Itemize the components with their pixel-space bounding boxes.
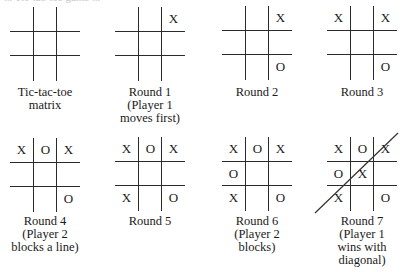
caption-round-2: Round 2 — [207, 86, 307, 99]
cell-5 — [246, 31, 269, 55]
cell-2 — [34, 7, 57, 31]
cell-9: O — [374, 186, 397, 210]
cell-5 — [34, 32, 57, 56]
board-round-2: X O — [222, 6, 292, 80]
cell-4 — [222, 31, 245, 55]
cell-1 — [10, 7, 33, 31]
caption-round-7: Round 7 (Player 1 wins with diagonal) — [312, 215, 405, 267]
cell-3: X — [374, 6, 397, 30]
cell-3: X — [57, 138, 80, 162]
cell-7 — [10, 187, 33, 211]
cell-6 — [269, 162, 292, 186]
cell-7: X — [115, 186, 138, 210]
cell-3: X — [162, 7, 185, 31]
cell-4 — [115, 32, 138, 56]
caption-line: blocks) — [207, 241, 307, 254]
cell-2: O — [34, 138, 57, 162]
cell-1: X — [327, 137, 350, 161]
cell-8 — [139, 56, 162, 80]
cell-6 — [374, 162, 397, 186]
cell-3: X — [162, 137, 185, 161]
caption-round-5: Round 5 — [100, 215, 200, 228]
cell-1: X — [222, 137, 245, 161]
caption-line: moves first) — [100, 112, 200, 125]
cell-7 — [222, 55, 245, 79]
cell-9 — [57, 56, 80, 80]
cell-3: X — [269, 6, 292, 30]
cell-8 — [34, 187, 57, 211]
caption-line: blocks a line) — [0, 241, 95, 254]
cell-5 — [246, 162, 269, 186]
cell-9: O — [162, 186, 185, 210]
cell-6 — [269, 31, 292, 55]
cell-6 — [57, 32, 80, 56]
caption-line: Round 2 — [207, 86, 307, 99]
cell-1: X — [10, 138, 33, 162]
caption-matrix: Tic-tac-toe matrix — [0, 86, 95, 112]
cell-9: O — [269, 55, 292, 79]
caption-line: diagonal) — [312, 254, 405, 267]
cell-8 — [34, 56, 57, 80]
cell-7 — [10, 56, 33, 80]
caption-line: Round 5 — [100, 215, 200, 228]
cell-8 — [246, 55, 269, 79]
caption-line: Round 3 — [312, 86, 405, 99]
board-round-1: X — [115, 7, 185, 81]
cell-9 — [162, 56, 185, 80]
cell-3 — [57, 7, 80, 31]
cell-9: O — [374, 55, 397, 79]
cell-6 — [162, 162, 185, 186]
cell-8 — [351, 186, 374, 210]
cell-3: X — [269, 137, 292, 161]
cell-5 — [34, 163, 57, 187]
cell-1: X — [115, 137, 138, 161]
cell-7: X — [222, 186, 245, 210]
caption-round-1: Round 1 (Player 1 moves first) — [100, 86, 200, 125]
cell-9: O — [57, 187, 80, 211]
cell-4: O — [222, 162, 245, 186]
cell-7: X — [327, 186, 350, 210]
cell-4 — [10, 163, 33, 187]
board-round-7: X O X O X X O — [327, 137, 397, 211]
cell-5 — [139, 162, 162, 186]
cell-5: X — [351, 162, 374, 186]
cell-6 — [162, 32, 185, 56]
cell-8 — [246, 186, 269, 210]
board-round-4: X O X O — [10, 138, 80, 212]
caption-round-6: Round 6 (Player 2 blocks) — [207, 215, 307, 254]
cell-6 — [374, 31, 397, 55]
cut-off-heading: ... Tic-tac-toe game ... — [4, 0, 100, 3]
cell-4 — [115, 162, 138, 186]
cell-7 — [327, 55, 350, 79]
cell-2 — [246, 6, 269, 30]
cell-4 — [10, 32, 33, 56]
cell-2 — [139, 7, 162, 31]
cell-2: O — [246, 137, 269, 161]
cell-5 — [139, 32, 162, 56]
cell-2 — [351, 6, 374, 30]
cell-7 — [115, 56, 138, 80]
board-round-3: X X O — [327, 6, 397, 80]
cell-3: X — [374, 137, 397, 161]
cell-1 — [222, 6, 245, 30]
board-round-5: X O X X O — [115, 137, 185, 211]
cell-1: X — [327, 6, 350, 30]
caption-round-3: Round 3 — [312, 86, 405, 99]
caption-line: matrix — [0, 99, 95, 112]
cell-2: O — [139, 137, 162, 161]
cell-4: O — [327, 162, 350, 186]
cell-9: O — [269, 186, 292, 210]
cell-8 — [351, 55, 374, 79]
cell-5 — [351, 31, 374, 55]
cell-6 — [57, 163, 80, 187]
board-round-6: X O X O X O — [222, 137, 292, 211]
cell-4 — [327, 31, 350, 55]
cell-8 — [139, 186, 162, 210]
cell-1 — [115, 7, 138, 31]
cell-2: O — [351, 137, 374, 161]
caption-round-4: Round 4 (Player 2 blocks a line) — [0, 215, 95, 254]
board-matrix — [10, 7, 80, 81]
